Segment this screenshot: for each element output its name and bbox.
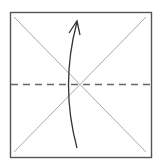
origami-diagram xyxy=(0,0,158,165)
